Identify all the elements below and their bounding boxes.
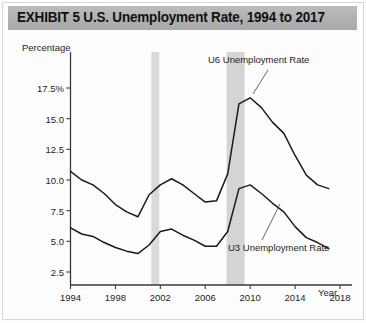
x-tick-label: 1998 (105, 292, 126, 303)
x-tick-label: 2018 (329, 292, 350, 303)
exhibit-title: EXHIBIT 5 U.S. Unemployment Rate, 1994 t… (17, 9, 325, 25)
x-tick-label: 2014 (285, 292, 306, 303)
u6-annotation-leader-line (253, 70, 268, 94)
x-tick-label: 2002 (150, 292, 171, 303)
y-tick-label: 5.0 (10, 236, 64, 247)
y-tick-label: 10.0 (10, 175, 64, 186)
x-tick-label: 2006 (195, 292, 216, 303)
u3-annotation: U3 Unemployment Rate (228, 242, 329, 253)
y-tick-label: 15.0 (10, 113, 64, 124)
x-tick-label: 1994 (60, 292, 81, 303)
u6-annotation: U6 Unemployment Rate (208, 54, 309, 65)
series-line-u6 (71, 98, 329, 217)
recession-2001-band (151, 52, 159, 285)
u3-annotation-leader-line (262, 204, 280, 240)
y-tick-label: 17.5% (10, 83, 64, 94)
y-tick-label: 7.5 (10, 205, 64, 216)
y-tick-label: 12.5 (10, 144, 64, 155)
x-tick-label: 2010 (240, 292, 261, 303)
y-tick-label: 2.5 (10, 267, 64, 278)
chart-plot-area: Percentage Year 2.55.07.510.012.515.017.… (0, 32, 366, 320)
exhibit-title-bar: EXHIBIT 5 U.S. Unemployment Rate, 1994 t… (8, 6, 357, 30)
exhibit-figure: EXHIBIT 5 U.S. Unemployment Rate, 1994 t… (0, 0, 366, 323)
